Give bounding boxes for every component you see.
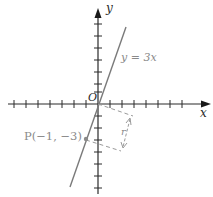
- y-axis-label: y: [106, 1, 113, 15]
- origin-label: O: [88, 91, 97, 104]
- coordinate-diagram: y x O y = 3x P(−1, −3) r: [0, 0, 213, 197]
- diagram-svg: [0, 0, 213, 197]
- x-axis: [8, 100, 211, 108]
- distance-r-label: r: [121, 126, 126, 137]
- point-p-marker: [84, 137, 88, 141]
- point-p-label: P(−1, −3): [24, 129, 82, 143]
- line-equation-label: y = 3x: [121, 51, 157, 64]
- x-axis-label: x: [200, 106, 207, 120]
- y-axis-arrow-icon: [95, 8, 102, 18]
